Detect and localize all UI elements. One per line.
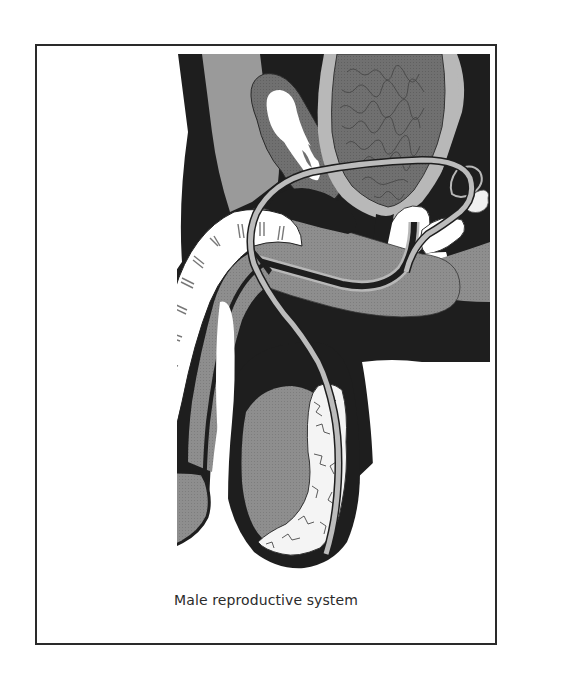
figure-caption: Male reproductive system: [37, 592, 495, 608]
glans: [136, 472, 210, 547]
skin-gap: [362, 360, 490, 594]
figure-frame: Male reproductive system: [35, 44, 497, 645]
reproductive-system-illustration: [37, 46, 495, 643]
